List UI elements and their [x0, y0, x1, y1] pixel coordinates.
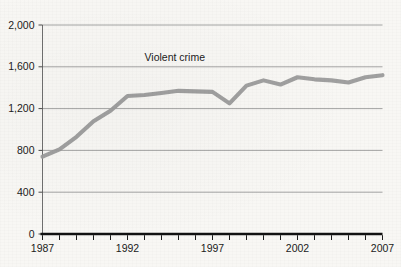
series-annotation-group: Violent crime	[145, 51, 206, 63]
x-axis-label-1992: 1992	[116, 242, 140, 254]
y-axis-tick-label-group: 04008001,2001,6002,000	[8, 19, 34, 240]
y-axis-label-400: 400	[17, 186, 35, 198]
data-series-group	[43, 75, 383, 157]
x-axis-label-2002: 2002	[286, 242, 310, 254]
y-axis-line-group	[39, 25, 43, 234]
x-axis-label-1997: 1997	[201, 242, 225, 254]
y-axis-label-800: 800	[17, 144, 35, 156]
x-axis-tick-label-group: 19871992199720022007	[31, 242, 395, 254]
chart-canvas: 04008001,2001,6002,000 19871992199720022…	[0, 0, 401, 267]
x-axis-label-2007: 2007	[371, 242, 395, 254]
x-axis-label-1987: 1987	[31, 242, 55, 254]
y-axis-label-2000: 2,000	[8, 19, 34, 31]
x-axis-tick-group	[43, 235, 383, 240]
series-line-0	[43, 75, 383, 157]
y-axis-label-1200: 1,200	[8, 102, 34, 114]
y-axis-label-1600: 1,600	[8, 60, 34, 72]
y-axis-label-0: 0	[29, 228, 35, 240]
gridline-group	[43, 25, 383, 192]
violent-crime-line-chart: 04008001,2001,6002,000 19871992199720022…	[0, 0, 401, 267]
series-annotation-label: Violent crime	[145, 51, 206, 63]
